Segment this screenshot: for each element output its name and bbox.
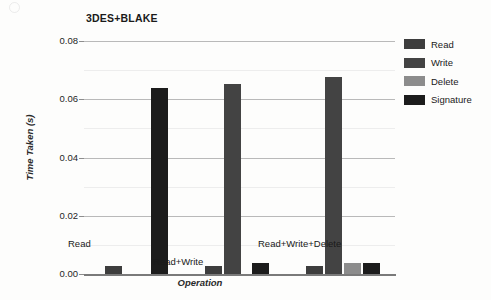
legend-swatch-icon	[404, 39, 425, 49]
legend-item-delete[interactable]: Delete	[404, 73, 490, 89]
legend-swatch-icon	[404, 95, 425, 105]
x-category-label-2: Read+Write+Delete	[258, 238, 341, 249]
y-tick-label: 0.04	[44, 152, 78, 163]
gridline-minor	[84, 70, 395, 71]
x-category-label-0: Read	[68, 238, 91, 249]
legend-label: Signature	[431, 94, 472, 105]
y-tick-label: 0.08	[44, 35, 78, 46]
bar-signature-group0	[151, 88, 168, 274]
bar-delete-group2	[344, 263, 361, 274]
bar-signature-group1	[252, 263, 269, 274]
bar-write-group1	[224, 84, 241, 274]
bar-read-group0	[105, 266, 122, 274]
chart-legend: ReadWriteDeleteSignature	[404, 36, 490, 110]
legend-label: Read	[431, 39, 454, 50]
chart-title: 3DES+BLAKE	[86, 12, 158, 24]
bar-read-group1	[205, 266, 222, 274]
chart-figure: 3DES+BLAKE Time Taken (s) Operation 0.00…	[0, 0, 491, 300]
bar-signature-group2	[363, 263, 380, 274]
legend-swatch-icon	[404, 76, 425, 86]
x-category-label-1: Read+Write	[153, 256, 203, 267]
bar-read-group2	[306, 266, 323, 274]
y-tick-label: 0.06	[44, 93, 78, 104]
legend-item-write[interactable]: Write	[404, 55, 490, 71]
scan-artifact-speck	[9, 2, 20, 13]
legend-label: Write	[431, 57, 453, 68]
y-tick-label: 0.02	[44, 210, 78, 221]
legend-item-signature[interactable]: Signature	[404, 92, 490, 108]
plot-area	[84, 41, 395, 233]
legend-swatch-icon	[404, 58, 425, 68]
legend-item-read[interactable]: Read	[404, 36, 490, 52]
legend-label: Delete	[431, 76, 458, 87]
y-axis-title: Time Taken (s)	[24, 93, 35, 203]
y-tick-label: 0.00	[44, 268, 78, 279]
gridline-major	[84, 41, 395, 42]
x-axis-line	[84, 274, 396, 276]
